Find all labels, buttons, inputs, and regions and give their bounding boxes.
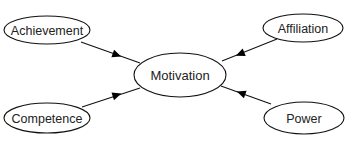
node-motivation: Motivation: [134, 53, 226, 97]
arrowhead-icon: [111, 50, 121, 58]
edge-affiliation-to-motivation: [222, 39, 277, 61]
node-affiliation: Affiliation: [263, 14, 343, 42]
node-label: Motivation: [150, 68, 209, 83]
edge-power-to-motivation: [221, 86, 271, 104]
node-label: Affiliation: [278, 22, 329, 36]
arrowhead-icon: [112, 93, 122, 101]
edge-competence-to-motivation: [82, 88, 140, 107]
connector-line: [82, 88, 140, 107]
node-achievement: Achievement: [4, 16, 90, 44]
motivation-concept-diagram: MotivationAchievementAffiliationCompeten…: [0, 0, 356, 146]
connector-line: [81, 42, 140, 63]
node-label: Achievement: [11, 24, 84, 38]
nodes: MotivationAchievementAffiliationCompeten…: [4, 14, 344, 134]
node-label: Competence: [12, 112, 83, 126]
edge-achievement-to-motivation: [81, 42, 140, 63]
node-competence: Competence: [4, 103, 90, 133]
connector-line: [222, 39, 277, 61]
diagram-canvas: MotivationAchievementAffiliationCompeten…: [0, 0, 356, 146]
connector-line: [221, 86, 271, 104]
arrowhead-icon: [237, 91, 247, 99]
node-label: Power: [286, 112, 321, 126]
node-power: Power: [264, 102, 344, 134]
